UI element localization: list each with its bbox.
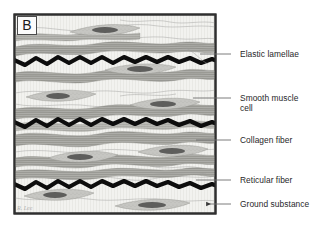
callout-label-elastic-lamellae: Elastic lamellae: [240, 49, 299, 59]
smooth-muscle-nucleus: [150, 101, 176, 107]
artist-signature: R. Lee: [17, 205, 32, 211]
callout-label-collagen-fiber: Collagen fiber: [240, 135, 292, 145]
smooth-muscle-nucleus: [159, 148, 185, 154]
histology-illustration: [0, 0, 329, 228]
callout-label-reticular-fiber: Reticular fiber: [240, 175, 292, 185]
illustration-frame-group: [14, 15, 217, 214]
panel-letter-b: B: [17, 16, 37, 35]
smooth-muscle-nucleus: [46, 93, 70, 99]
smooth-muscle-nucleus: [127, 66, 153, 72]
smooth-muscle-nucleus: [43, 192, 67, 198]
smooth-muscle-nucleus: [92, 27, 118, 33]
callout-label-smooth-muscle-cell: Smooth muscle cell: [240, 93, 298, 113]
smooth-muscle-nucleus: [138, 202, 166, 208]
histology-figure-panel-b: B Elastic lamellae Smooth muscle cell Co…: [0, 0, 329, 228]
callout-label-ground-substance: Ground substance: [240, 199, 309, 209]
smooth-muscle-nucleus: [67, 154, 93, 160]
